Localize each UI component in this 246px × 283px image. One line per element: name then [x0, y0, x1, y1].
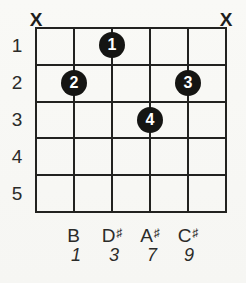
- fret-wire-5: [35, 211, 227, 213]
- note-letter: D: [102, 225, 116, 246]
- finger-dot-2: 2: [61, 70, 87, 96]
- note-name-string-3: D♯: [95, 222, 129, 244]
- note-name-string-4: A♯: [133, 222, 167, 244]
- fret-wire-2: [35, 101, 227, 103]
- string-line-2: [73, 27, 75, 213]
- fret-number-3: 3: [6, 109, 28, 131]
- interval-label-3: 3: [99, 244, 129, 266]
- finger-dot-3-label: 3: [184, 75, 193, 91]
- guitar-chord-diagram: X X 1 2 3 4 5 1 2 3 4 B D♯ A♯ C♯ 1 3 7 9: [0, 0, 246, 283]
- finger-dot-1-label: 1: [108, 37, 117, 53]
- note-accidental: ♯: [154, 226, 160, 240]
- fret-wire-1: [35, 64, 227, 66]
- note-name-string-5: C♯: [171, 222, 205, 244]
- interval-label-9: 9: [174, 244, 204, 266]
- finger-dot-1: 1: [99, 32, 125, 58]
- fret-wire-4: [35, 174, 227, 176]
- fret-number-1: 1: [6, 35, 28, 57]
- fret-number-2: 2: [6, 72, 28, 94]
- fret-number-5: 5: [6, 183, 28, 205]
- interval-label-1: 1: [61, 244, 91, 266]
- fret-number-4: 4: [6, 146, 28, 168]
- fret-wire-0: [35, 27, 227, 29]
- note-accidental: ♯: [116, 226, 122, 240]
- string-line-1: [35, 27, 37, 213]
- interval-label-7: 7: [137, 244, 167, 266]
- note-letter: C: [178, 225, 192, 246]
- note-letter: B: [67, 225, 80, 246]
- string-line-6: [225, 27, 227, 213]
- muted-string-marker-right: X: [215, 9, 237, 31]
- finger-dot-4-label: 4: [146, 112, 155, 128]
- finger-dot-4: 4: [137, 107, 163, 133]
- fret-wire-3: [35, 137, 227, 139]
- finger-dot-2-label: 2: [70, 75, 79, 91]
- note-letter: A: [140, 225, 153, 246]
- note-accidental: ♯: [192, 226, 198, 240]
- finger-dot-3: 3: [175, 70, 201, 96]
- string-line-5: [187, 27, 189, 213]
- note-name-string-2: B: [57, 222, 91, 244]
- muted-string-marker-left: X: [25, 9, 47, 31]
